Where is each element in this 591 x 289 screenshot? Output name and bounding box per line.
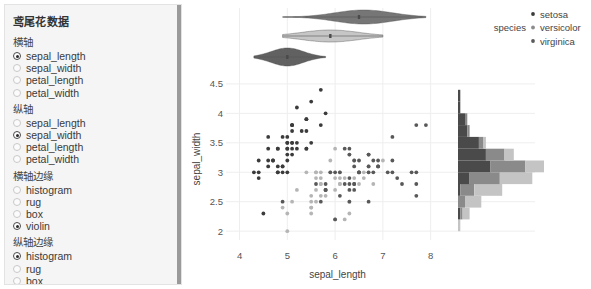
radio-checked-icon[interactable]: [13, 131, 21, 139]
radio-x-axis-sepal_width[interactable]: sepal_width: [13, 62, 181, 74]
scatter-point-versicolor: [348, 212, 352, 216]
histogram-bar-virginica: [460, 184, 474, 196]
radio-unchecked-icon[interactable]: [13, 89, 21, 97]
radio-x-marginal-box[interactable]: box: [13, 208, 181, 220]
radio-label: sepal_width: [26, 62, 81, 74]
histogram-bar-setosa: [458, 137, 479, 149]
radio-checked-icon[interactable]: [13, 52, 21, 60]
scatter-point-virginica: [343, 147, 347, 151]
radio-y-marginal-histogram[interactable]: histogram: [13, 250, 181, 262]
scatter-point-versicolor: [333, 147, 337, 151]
histogram-bar-setosa: [458, 184, 460, 196]
scatter-points: [252, 88, 428, 233]
radio-label: histogram: [26, 250, 72, 262]
violin-median-virginica: [358, 15, 360, 19]
sidebar-scrollbar-thumb[interactable]: [177, 5, 181, 284]
y-tick-label: 4: [218, 108, 223, 119]
radio-y-axis-sepal_width[interactable]: sepal_width: [13, 129, 181, 141]
plot-figure: 4567822.533.544.5sepal_lengthsepal_width…: [190, 0, 591, 289]
scatter-point-versicolor: [314, 170, 318, 174]
scatter-point-setosa: [281, 135, 285, 139]
radio-unchecked-icon[interactable]: [13, 277, 21, 285]
radio-unchecked-icon[interactable]: [13, 265, 21, 273]
radio-x-axis-petal_width[interactable]: petal_width: [13, 87, 181, 99]
scatter-point-setosa: [266, 135, 270, 139]
radio-unchecked-icon[interactable]: [13, 143, 21, 151]
scatter-point-setosa: [276, 147, 280, 151]
histogram-bar-versicolor: [474, 184, 502, 196]
radio-y-axis-petal_length[interactable]: petal_length: [13, 141, 181, 153]
radio-label: box: [26, 275, 43, 285]
scatter-point-setosa: [252, 170, 256, 174]
app-root: 鸢尾花数据 横轴sepal_lengthsepal_widthpetal_len…: [0, 0, 591, 289]
radio-y-marginal-rug[interactable]: rug: [13, 262, 181, 274]
scatter-point-setosa: [295, 141, 299, 145]
radio-group-y-axis: 纵轴sepal_lengthsepal_widthpetal_lengthpet…: [5, 102, 181, 166]
scatter-point-setosa: [257, 159, 261, 163]
scatter-point-virginica: [391, 159, 395, 163]
legend-label-virginica[interactable]: virginica: [540, 36, 576, 47]
scatter-point-versicolor: [314, 200, 318, 204]
y-marginal-histogram: [458, 90, 544, 231]
scatter-point-setosa: [266, 147, 270, 151]
scatter-point-versicolor: [305, 170, 309, 174]
legend-marker-setosa[interactable]: [531, 12, 535, 16]
radio-checked-icon[interactable]: [13, 222, 21, 230]
scatter-point-setosa: [257, 170, 261, 174]
scatter-point-virginica: [338, 170, 342, 174]
radio-x-axis-sepal_length[interactable]: sepal_length: [13, 50, 181, 62]
radio-label: rug: [26, 196, 41, 208]
scatter-point-setosa: [290, 147, 294, 151]
radio-x-marginal-rug[interactable]: rug: [13, 196, 181, 208]
radio-group-label-x-marginal: 横轴边缘: [13, 169, 181, 183]
histogram-bar-setosa: [458, 172, 470, 184]
radio-group-label-y-marginal: 纵轴边缘: [13, 235, 181, 249]
scatter-point-virginica: [348, 182, 352, 186]
scatter-point-virginica: [343, 182, 347, 186]
radio-checked-icon[interactable]: [13, 252, 21, 260]
scatter-point-virginica: [367, 153, 371, 157]
scatter-point-virginica: [348, 188, 352, 192]
scatter-point-virginica: [367, 170, 371, 174]
legend-marker-versicolor[interactable]: [531, 26, 535, 30]
radio-y-marginal-box[interactable]: box: [13, 275, 181, 285]
histogram-bar-setosa: [458, 208, 460, 220]
scatter-point-versicolor: [333, 176, 337, 180]
radio-label: histogram: [26, 184, 72, 196]
legend-label-versicolor[interactable]: versicolor: [540, 22, 581, 33]
scatter-point-setosa: [276, 165, 280, 169]
legend-marker-virginica[interactable]: [531, 39, 535, 43]
histogram-bar-versicolor: [500, 172, 533, 184]
radio-unchecked-icon[interactable]: [13, 210, 21, 218]
scatter-point-versicolor: [319, 182, 323, 186]
scatter-point-virginica: [357, 159, 361, 163]
radio-unchecked-icon[interactable]: [13, 155, 21, 163]
legend-label-setosa[interactable]: setosa: [540, 9, 569, 20]
scatter-point-versicolor: [324, 194, 328, 198]
radio-label: petal_width: [26, 87, 79, 99]
scatter-point-setosa: [281, 170, 285, 174]
sidebar-scrollbar[interactable]: [177, 5, 181, 284]
scatter-point-versicolor: [362, 170, 366, 174]
radio-unchecked-icon[interactable]: [13, 64, 21, 72]
scatter-point-setosa: [257, 176, 261, 180]
radio-y-axis-petal_width[interactable]: petal_width: [13, 153, 181, 165]
radio-x-axis-petal_length[interactable]: petal_length: [13, 74, 181, 86]
radio-y-axis-sepal_length[interactable]: sepal_length: [13, 117, 181, 129]
radio-x-marginal-histogram[interactable]: histogram: [13, 184, 181, 196]
y-tick-label: 3.5: [210, 137, 223, 148]
radio-unchecked-icon[interactable]: [13, 186, 21, 194]
radio-x-marginal-violin[interactable]: violin: [13, 220, 181, 232]
radio-unchecked-icon[interactable]: [13, 119, 21, 127]
scatter-point-setosa: [290, 141, 294, 145]
radio-unchecked-icon[interactable]: [13, 198, 21, 206]
scatter-point-virginica: [367, 165, 371, 169]
histogram-bar-virginica: [458, 196, 465, 208]
scatter-point-versicolor: [319, 176, 323, 180]
scatter-point-versicolor: [381, 159, 385, 163]
scatter-point-versicolor: [343, 218, 347, 222]
x-axis-title: sepal_length: [309, 269, 366, 280]
radio-label: sepal_width: [26, 129, 81, 141]
radio-unchecked-icon[interactable]: [13, 76, 21, 84]
histogram-bar-setosa: [458, 90, 460, 102]
